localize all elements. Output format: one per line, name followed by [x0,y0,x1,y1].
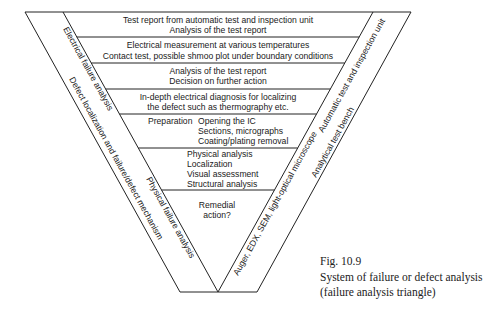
band-2-line-2: Contact test, possible shmoo plot under … [103,51,333,61]
band-3: Analysis of the test report Decision on … [169,66,267,86]
figure-number: Fig. 10.9 [320,255,361,268]
band-1: Test report from automatic test and insp… [123,15,314,35]
figure-caption: Fig. 10.9 System of failure or defect an… [320,255,483,299]
band-3-line-2: Decision on further action [169,76,267,86]
band-6-line-4: Structural analysis [187,179,257,189]
caption-line-2: (failure analysis triangle) [320,286,436,299]
failure-analysis-triangle: Test report from automatic test and insp… [0,0,487,319]
band-5: Preparation Opening the IC Sections, mic… [148,116,288,146]
band-6-line-2: Localization [187,159,233,169]
band-5-line-3: Coating/plating removal [198,136,288,146]
band-4: In-depth electrical diagnosis for locali… [140,92,297,112]
caption-line-1: System of failure or defect analysis [320,271,483,284]
band-4-line-1: In-depth electrical diagnosis for locali… [140,92,297,102]
band-6-line-1: Physical analysis [187,149,252,159]
band-1-line-2: Analysis of the test report [170,25,268,35]
preparation-label: Preparation [148,116,193,126]
band-5-line-1: Opening the IC [198,116,256,126]
band-7-line-2: action? [203,210,231,220]
band-4-line-2: the defect such as thermography etc. [147,102,288,112]
band-7-line-1: Remedial [199,200,235,210]
band-5-line-2: Sections, micrographs [198,126,283,136]
band-7: Remedial action? [199,200,235,220]
band-2: Electrical measurement at various temper… [103,40,333,61]
band-1-line-1: Test report from automatic test and insp… [123,15,314,25]
band-6: Physical analysis Localization Visual as… [187,149,259,189]
band-3-line-1: Analysis of the test report [170,66,268,76]
band-6-line-3: Visual assessment [187,169,259,179]
band-2-line-1: Electrical measurement at various temper… [127,40,309,50]
